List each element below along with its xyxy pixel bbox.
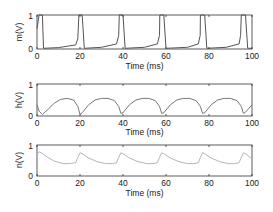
x-ticks-m: [37, 15, 252, 49]
panel-h: 1 0 h(V) 0 20 40 60 80 100 Time (ms): [14, 80, 259, 137]
svg-text:60: 60: [161, 51, 171, 61]
ytick-top-h: 1: [28, 80, 33, 90]
svg-text:100: 100: [245, 51, 259, 61]
svg-text:100: 100: [245, 178, 259, 188]
ytick-bottom-n: 0: [28, 171, 33, 181]
x-ticks-n: [37, 145, 252, 176]
xlabel-n: Time (ms): [126, 188, 164, 198]
axes-box-n: [37, 145, 252, 176]
ytick-bottom-m: 0: [28, 44, 33, 54]
svg-text:80: 80: [204, 118, 214, 128]
svg-text:20: 20: [75, 51, 85, 61]
svg-text:60: 60: [161, 178, 171, 188]
axes-box-h: [37, 84, 252, 116]
n-line: [37, 152, 252, 164]
ytick-top-n: 1: [28, 141, 33, 151]
panel-m: 1 0 m(V) 0 20 40 60 80 100 Time (ms): [14, 11, 259, 71]
xlabel-m: Time (ms): [126, 61, 164, 71]
axes-box-m: [37, 15, 252, 49]
svg-text:0: 0: [35, 51, 40, 61]
x-ticks-h: [37, 84, 252, 116]
ylabel-n: n(V): [14, 152, 24, 168]
svg-text:40: 40: [118, 178, 128, 188]
svg-text:100: 100: [245, 118, 259, 128]
svg-text:40: 40: [118, 51, 128, 61]
svg-text:0: 0: [35, 178, 40, 188]
svg-text:20: 20: [75, 118, 85, 128]
xtick-labels-n: 0 20 40 60 80 100: [35, 178, 260, 188]
ylabel-h: h(V): [14, 92, 24, 108]
m-line: [37, 15, 252, 48]
figure: 1 0 m(V) 0 20 40 60 80 100 Time (ms) 1 0…: [0, 0, 273, 212]
panel-n: 1 0 n(V) 0 20 40 60 80 100 Time (ms): [14, 141, 259, 198]
xtick-labels-m: 0 20 40 60 80 100: [35, 51, 260, 61]
svg-text:80: 80: [204, 51, 214, 61]
h-line: [37, 98, 252, 114]
ylabel-m: m(V): [14, 23, 24, 42]
svg-text:20: 20: [75, 178, 85, 188]
xlabel-h: Time (ms): [126, 127, 164, 137]
svg-text:0: 0: [35, 118, 40, 128]
ytick-bottom-h: 0: [28, 111, 33, 121]
ytick-top-m: 1: [28, 11, 33, 21]
svg-text:80: 80: [204, 178, 214, 188]
